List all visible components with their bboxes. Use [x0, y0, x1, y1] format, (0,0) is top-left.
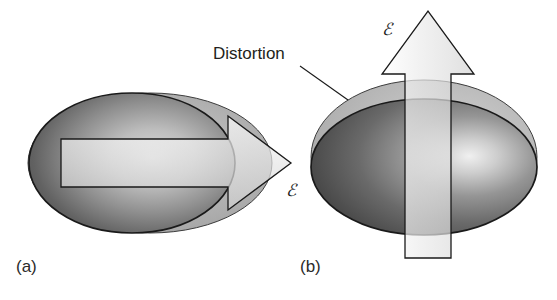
panel-b-label: (b)	[300, 257, 321, 276]
panel-a-group: (a) ℰ	[16, 93, 298, 276]
panel-a-label: (a)	[16, 257, 37, 276]
distortion-diagram: (a) ℰ Distortion (b) ℰ	[0, 0, 557, 300]
panel-a-field-label: ℰ	[286, 181, 298, 200]
figure-container: (a) ℰ Distortion (b) ℰ	[0, 0, 557, 300]
panel-b-field-label: ℰ	[382, 20, 394, 39]
distortion-label: Distortion	[213, 44, 285, 63]
panel-b-group: (b) ℰ	[300, 11, 537, 276]
